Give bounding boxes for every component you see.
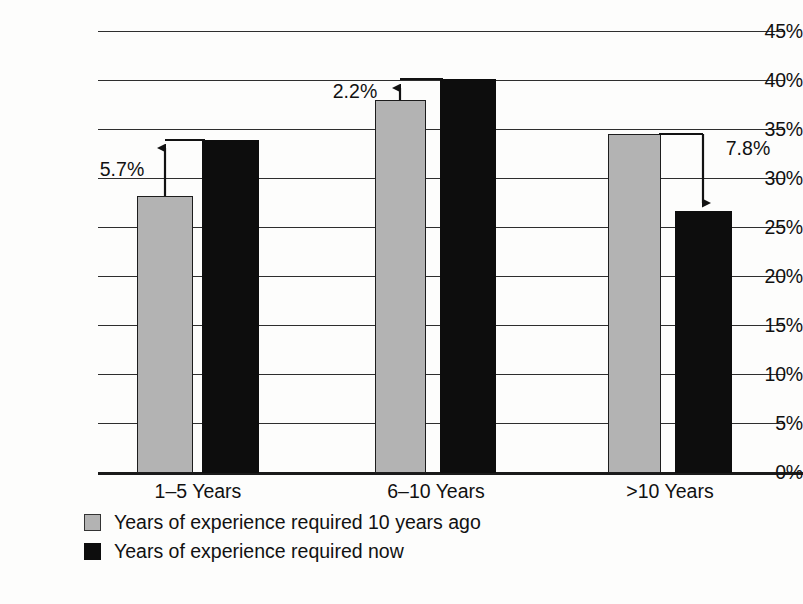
- bar-now-1-5-years[interactable]: [202, 140, 259, 473]
- annotation-label-group-1: 5.7%: [100, 158, 144, 181]
- y-tick-label-5: 5%: [731, 412, 803, 435]
- legend-item-now[interactable]: Years of experience required now: [84, 537, 684, 566]
- legend-label-now: Years of experience required now: [114, 540, 404, 563]
- y-tick-label-10: 10%: [731, 363, 803, 386]
- bar-old-over-10-years[interactable]: [608, 134, 661, 473]
- gridline-45: [98, 31, 785, 32]
- y-tick-label-30: 30%: [731, 167, 803, 190]
- chart-legend: Years of experience required 10 years ag…: [84, 508, 684, 566]
- category-label-1-5-years: 1–5 Years: [155, 480, 242, 503]
- chart-page: 45% 40% 35% 30% 25% 20% 15% 10% 5% 0%: [0, 0, 803, 604]
- annotation-label-group-2: 2.2%: [333, 80, 377, 103]
- bar-old-1-5-years[interactable]: [137, 196, 193, 473]
- category-label-over-10-years: >10 Years: [626, 480, 713, 503]
- y-tick-label-20: 20%: [731, 265, 803, 288]
- category-label-6-10-years: 6–10 Years: [387, 480, 485, 503]
- y-tick-label-15: 15%: [731, 314, 803, 337]
- annotation-label-group-3: 7.8%: [726, 137, 770, 160]
- y-tick-label-45: 45%: [731, 20, 803, 43]
- legend-label-old: Years of experience required 10 years ag…: [114, 511, 481, 534]
- bar-old-6-10-years[interactable]: [375, 100, 426, 473]
- legend-swatch-icon-now: [84, 543, 101, 560]
- bar-now-6-10-years[interactable]: [440, 79, 496, 473]
- bar-now-over-10-years[interactable]: [675, 211, 732, 473]
- bar-chart: 45% 40% 35% 30% 25% 20% 15% 10% 5% 0%: [0, 0, 803, 500]
- y-tick-label-40: 40%: [731, 69, 803, 92]
- annotation-arrow-7-8: [659, 134, 703, 203]
- y-tick-label-25: 25%: [731, 216, 803, 239]
- y-tick-label-0: 0%: [731, 461, 803, 484]
- legend-item-old[interactable]: Years of experience required 10 years ag…: [84, 508, 684, 537]
- annotation-arrow-5-7: [165, 140, 205, 196]
- legend-swatch-icon-old: [84, 514, 101, 531]
- annotation-arrow-2-2: [400, 79, 443, 100]
